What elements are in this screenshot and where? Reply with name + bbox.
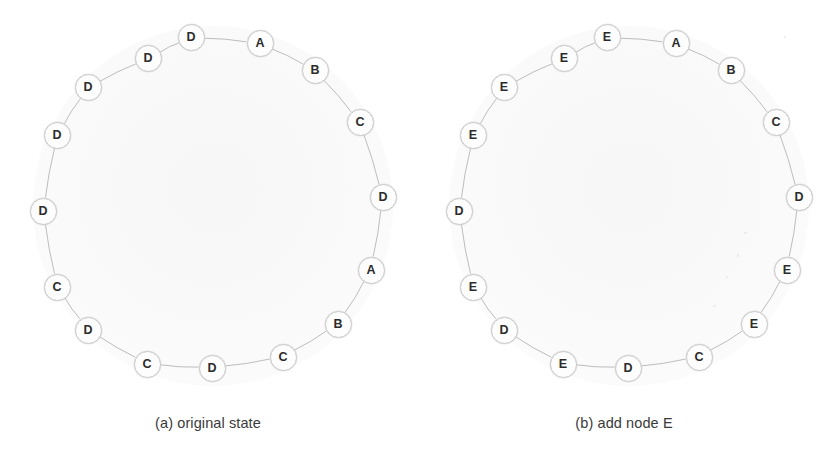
ring-edge bbox=[577, 43, 595, 52]
ring-node[interactable]: D bbox=[786, 184, 813, 211]
ring-edge bbox=[46, 149, 55, 197]
scan-speck bbox=[744, 232, 747, 234]
ring-node[interactable]: D bbox=[615, 355, 642, 382]
ring-a-edges bbox=[0, 0, 416, 412]
ring-edge bbox=[100, 337, 135, 357]
ring-node-label: D bbox=[499, 324, 508, 337]
ring-edge bbox=[481, 298, 496, 318]
ring-node[interactable]: C bbox=[686, 344, 713, 371]
ring-node[interactable]: E bbox=[460, 122, 487, 149]
ring-node[interactable]: A bbox=[663, 30, 690, 57]
ring-edge bbox=[65, 298, 80, 318]
ring-edge bbox=[46, 225, 55, 273]
ring-edge bbox=[65, 99, 81, 123]
ring-node-label: D bbox=[38, 205, 47, 218]
figure-container: DABCDABCDCDCDDDD (a) original state EABC… bbox=[0, 0, 832, 468]
scan-speck bbox=[737, 254, 739, 257]
ring-node-label: D bbox=[623, 362, 632, 375]
scan-speck bbox=[784, 36, 786, 38]
ring-edge bbox=[226, 359, 269, 366]
ring-node-label: C bbox=[278, 351, 287, 364]
ring-node-label: C bbox=[694, 351, 703, 364]
ring-node[interactable]: C bbox=[134, 351, 161, 378]
ring-edge bbox=[621, 38, 662, 42]
ring-edge bbox=[740, 81, 767, 112]
ring-node[interactable]: E bbox=[774, 257, 801, 284]
ring-edge bbox=[516, 337, 551, 357]
ring-node[interactable]: D bbox=[491, 317, 518, 344]
ring-node[interactable]: D bbox=[446, 198, 473, 225]
ring-node-label: D bbox=[83, 324, 92, 337]
ring-node[interactable]: B bbox=[302, 57, 329, 84]
ring-node[interactable]: D bbox=[135, 45, 162, 72]
ring-node-label: E bbox=[750, 318, 759, 331]
ring-b: EABCDEECDEDEDEEE bbox=[416, 0, 832, 412]
ring-edge bbox=[780, 135, 795, 183]
ring-edge bbox=[711, 331, 742, 350]
ring-node-label: A bbox=[255, 37, 264, 50]
ring-edge bbox=[577, 365, 614, 367]
scan-speck bbox=[726, 276, 728, 278]
ring-node-label: A bbox=[671, 37, 680, 50]
panel-original-state: DABCDABCDCDCDDDD (a) original state bbox=[0, 0, 416, 468]
ring-node-label: C bbox=[142, 358, 151, 371]
ring-node[interactable]: D bbox=[44, 122, 71, 149]
ring-node-label: B bbox=[333, 318, 342, 331]
ring-edge bbox=[273, 49, 303, 64]
ring-edge bbox=[205, 38, 246, 42]
panel-add-node-e: EABCDEECDEDEDEEE (b) add node E bbox=[416, 0, 832, 468]
ring-node[interactable]: E bbox=[741, 311, 768, 338]
ring-node-label: D bbox=[207, 362, 216, 375]
ring-node-label: D bbox=[186, 31, 195, 44]
ring-edge bbox=[364, 135, 379, 183]
ring-node-label: C bbox=[355, 116, 364, 129]
ring-node-label: B bbox=[726, 64, 735, 77]
ring-edge bbox=[689, 49, 719, 64]
ring-edge bbox=[345, 282, 363, 312]
ring-node[interactable]: C bbox=[270, 344, 297, 371]
ring-edge bbox=[324, 81, 351, 112]
ring-node-label: D bbox=[52, 129, 61, 142]
ring-node[interactable]: C bbox=[347, 109, 374, 136]
ring-node[interactable]: D bbox=[178, 24, 205, 51]
ring-node-label: B bbox=[310, 64, 319, 77]
ring-edge bbox=[761, 282, 779, 312]
ring-node[interactable]: E bbox=[550, 351, 577, 378]
ring-node-label: E bbox=[559, 358, 568, 371]
ring-node-label: E bbox=[603, 31, 612, 44]
ring-edge bbox=[789, 211, 796, 256]
ring-node-label: C bbox=[771, 116, 780, 129]
ring-node[interactable]: D bbox=[75, 74, 102, 101]
ring-node[interactable]: C bbox=[44, 274, 71, 301]
ring-node[interactable]: E bbox=[491, 74, 518, 101]
ring-edge bbox=[295, 331, 326, 350]
ring-node[interactable]: D bbox=[30, 198, 57, 225]
ring-node[interactable]: C bbox=[763, 109, 790, 136]
ring-node-label: E bbox=[469, 129, 478, 142]
ring-node[interactable]: D bbox=[370, 184, 397, 211]
ring-node[interactable]: E bbox=[594, 24, 621, 51]
ring-edge bbox=[517, 64, 552, 81]
caption-add-node-e: (b) add node E bbox=[416, 415, 832, 431]
ring-node[interactable]: A bbox=[358, 257, 385, 284]
ring-node[interactable]: B bbox=[325, 311, 352, 338]
ring-edge bbox=[462, 149, 471, 197]
ring-node-label: D bbox=[83, 81, 92, 94]
ring-node[interactable]: E bbox=[551, 45, 578, 72]
ring-edge bbox=[642, 359, 685, 366]
ring-edge bbox=[161, 43, 179, 52]
ring-edge bbox=[481, 99, 497, 123]
ring-node[interactable]: A bbox=[247, 30, 274, 57]
ring-node-label: D bbox=[143, 52, 152, 65]
ring-node-label: C bbox=[52, 281, 61, 294]
ring-node[interactable]: B bbox=[718, 57, 745, 84]
ring-edge bbox=[373, 211, 380, 256]
ring-node[interactable]: D bbox=[75, 317, 102, 344]
ring-a: DABCDABCDCDCDDDD bbox=[0, 0, 416, 412]
ring-node-label: E bbox=[783, 264, 792, 277]
caption-original-state: (a) original state bbox=[0, 415, 416, 431]
ring-node[interactable]: D bbox=[199, 355, 226, 382]
ring-node[interactable]: E bbox=[460, 274, 487, 301]
ring-b-edges bbox=[416, 0, 832, 412]
scan-speck bbox=[713, 305, 716, 307]
